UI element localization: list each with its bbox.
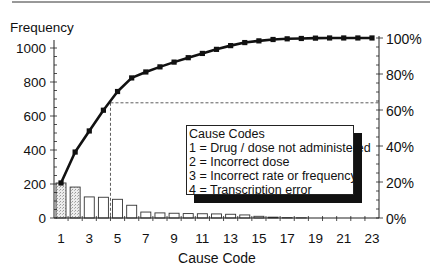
y2-tick-label: 60% — [386, 103, 414, 119]
bar-cause-6 — [127, 205, 137, 218]
x-tick-label: 19 — [308, 231, 323, 246]
cumulative-point — [327, 35, 332, 40]
x-tick-label: 15 — [251, 231, 266, 246]
y2-tick-label: 80% — [386, 67, 414, 83]
cumulative-point — [87, 128, 92, 133]
cumulative-point — [270, 37, 275, 42]
cumulative-point — [73, 149, 78, 154]
legend-title: Cause Codes — [189, 127, 353, 141]
cumulative-point — [115, 89, 120, 94]
bar-cause-9 — [169, 213, 179, 218]
cumulative-point — [58, 180, 63, 185]
legend-item: 3 = Incorrect rate or frequency — [189, 169, 353, 183]
cumulative-point — [143, 69, 148, 74]
bar-cause-1 — [56, 183, 66, 218]
x-tick-label: 1 — [57, 231, 65, 246]
y-tick-label: 400 — [23, 143, 46, 158]
cumulative-point — [157, 64, 162, 69]
x-tick-label: 21 — [336, 231, 351, 246]
x-tick-label: 5 — [114, 231, 122, 246]
legend-box: Cause Codes 1 = Drug / dose not administ… — [186, 125, 354, 195]
cumulative-point — [341, 35, 346, 40]
y-tick-label: 0 — [38, 211, 46, 226]
y-tick-label: 1000 — [16, 41, 46, 56]
x-tick-label: 7 — [142, 231, 150, 246]
cumulative-point — [355, 35, 360, 40]
x-tick-label: 3 — [86, 231, 94, 246]
y2-tick-label: 100% — [386, 31, 422, 47]
cumulative-point — [369, 35, 374, 40]
y2-tick-label: 0% — [386, 211, 406, 227]
cumulative-point — [256, 38, 261, 43]
cumulative-point — [228, 43, 233, 48]
x-tick-label: 13 — [223, 231, 238, 246]
cumulative-point — [285, 36, 290, 41]
y-tick-label: 600 — [23, 109, 46, 124]
cumulative-point — [186, 55, 191, 60]
bar-cause-7 — [141, 212, 151, 218]
y-tick-label: 200 — [23, 177, 46, 192]
x-tick-label: 17 — [280, 231, 295, 246]
y2-tick-label: 20% — [386, 175, 414, 191]
bar-cause-10 — [183, 214, 193, 218]
x-tick-label: 23 — [364, 231, 379, 246]
legend-item: 4 = Transcription error — [189, 183, 353, 197]
cumulative-point — [299, 36, 304, 41]
bar-cause-3 — [84, 197, 94, 218]
cumulative-point — [101, 108, 106, 113]
bar-cause-12 — [212, 214, 222, 218]
cumulative-point — [171, 60, 176, 65]
cumulative-point — [313, 36, 318, 41]
bar-cause-5 — [113, 199, 123, 218]
legend-item: 2 = Incorrect dose — [189, 155, 353, 169]
bar-cause-8 — [155, 213, 165, 218]
cumulative-point — [242, 40, 247, 45]
x-axis-title: Cause Code — [178, 250, 256, 266]
cumulative-point — [214, 47, 219, 52]
bar-cause-4 — [98, 197, 108, 218]
y2-tick-label: 40% — [386, 139, 414, 155]
x-tick-label: 9 — [170, 231, 178, 246]
y-axis-title: Frequency — [10, 20, 74, 35]
cumulative-point — [129, 75, 134, 80]
x-tick-label: 11 — [195, 231, 209, 246]
y-tick-label: 800 — [23, 75, 46, 90]
legend-item: 1 = Drug / dose not administered — [189, 141, 353, 155]
bar-cause-2 — [70, 187, 80, 218]
bar-cause-11 — [197, 214, 207, 218]
cumulative-point — [200, 51, 205, 56]
